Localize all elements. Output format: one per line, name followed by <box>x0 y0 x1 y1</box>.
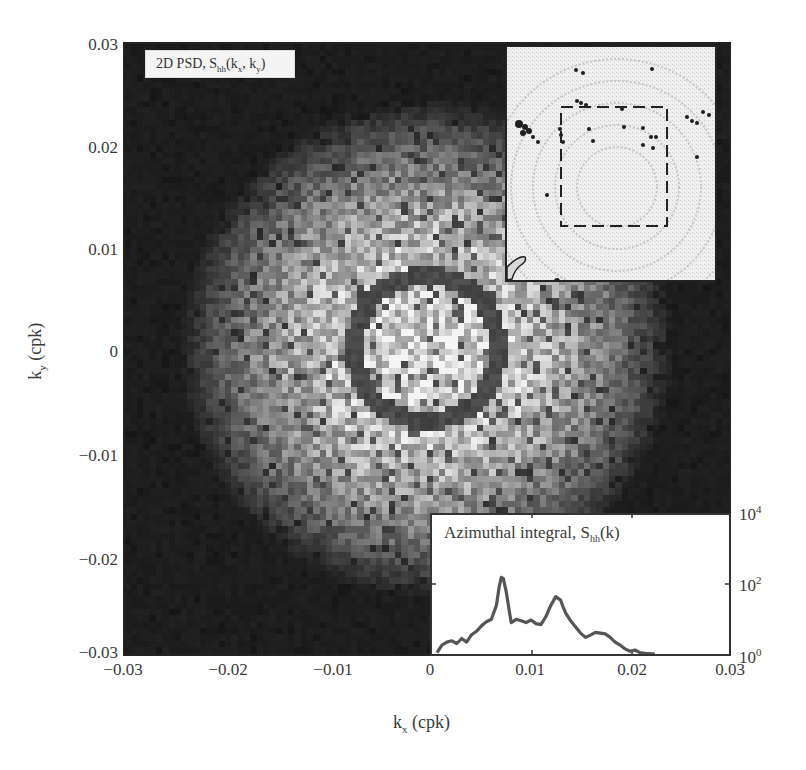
azimuthal-integral-inset: Azimuthal integral, Shh(k) <box>430 513 731 656</box>
rtick-exp: 4 <box>756 503 762 515</box>
rtick-base: 10 <box>739 576 756 595</box>
title-open: (k <box>226 56 238 71</box>
ytick-label: −0.02 <box>38 550 118 570</box>
y-axis-label-unit: (cpk) <box>25 323 45 365</box>
xtick-label: 0.01 <box>490 660 570 680</box>
heatmap-title-box: 2D PSD, Shh(kx, ky) <box>145 50 295 78</box>
y-axis-label-sub: y <box>36 365 48 371</box>
rtick-label: 104 <box>739 503 762 525</box>
xtick-label: 0.02 <box>592 660 672 680</box>
ytick-label: −0.01 <box>38 446 118 466</box>
ytick-label: 0.03 <box>38 35 118 55</box>
title-mid: , k <box>242 56 256 71</box>
xtick-label: −0.01 <box>293 660 373 680</box>
title-prefix: 2D PSD, S <box>156 56 217 71</box>
xtick-label: −0.03 <box>83 660 163 680</box>
ytick-label: 0 <box>38 342 118 362</box>
y-axis-label-main: k <box>25 371 45 380</box>
location-map <box>507 47 715 280</box>
spectrum-title-sub: hh <box>590 533 600 544</box>
xtick-label: 0 <box>390 660 470 680</box>
y-axis-label: ky (cpk) <box>25 323 48 380</box>
rtick-label: 102 <box>739 574 762 596</box>
rtick-exp: 2 <box>756 574 762 586</box>
ytick-label: 0.01 <box>38 240 118 260</box>
xtick-label: −0.02 <box>188 660 268 680</box>
spectrum-line <box>437 577 655 654</box>
title-close: ) <box>261 56 266 71</box>
x-axis-label-unit: (cpk) <box>408 712 450 732</box>
title-sub: hh <box>217 64 226 74</box>
ytick-label: 0.02 <box>38 138 118 158</box>
spectrum-title-suffix: (k) <box>600 523 620 542</box>
x-axis-label-main: k <box>393 712 402 732</box>
psd-figure: 0.03 0.02 0.01 0 −0.01 −0.02 −0.03 ky (c… <box>0 0 806 770</box>
spectrum-title: Azimuthal integral, Shh(k) <box>444 523 620 544</box>
rtick-base: 10 <box>739 505 756 524</box>
xtick-label: 0.03 <box>690 660 770 680</box>
x-axis-label: kx (cpk) <box>393 712 450 735</box>
spectrum-title-prefix: Azimuthal integral, S <box>444 523 590 542</box>
location-map-inset <box>505 45 717 282</box>
rtick-exp: 0 <box>756 646 762 658</box>
